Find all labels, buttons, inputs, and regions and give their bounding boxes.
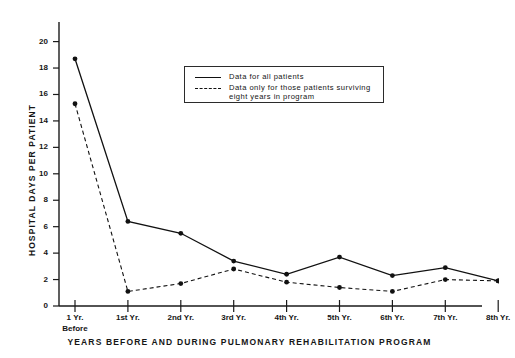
y-tick-label: 20 — [22, 37, 48, 46]
data-point — [178, 231, 183, 236]
data-point — [126, 219, 131, 224]
data-point — [443, 265, 448, 270]
legend-item-all-patients: Data for all patients — [193, 72, 371, 82]
y-tick-label: 14 — [22, 116, 48, 125]
y-tick-label: 18 — [22, 63, 48, 72]
x-tick-label: 4th Yr. — [257, 313, 317, 322]
data-point — [390, 273, 395, 278]
data-point — [284, 280, 289, 285]
legend-label-survivors-line1: Data only for those patients surviving — [229, 83, 371, 92]
chart-legend: Data for all patients Data only for thos… — [184, 66, 384, 103]
data-point — [73, 101, 78, 106]
y-axis-ticks — [53, 42, 59, 306]
x-tick-label: 1 Yr.Before — [45, 313, 105, 333]
data-point — [337, 285, 342, 290]
x-tick-label: 6th Yr. — [362, 313, 422, 322]
x-tick-label: 2nd Yr. — [151, 313, 211, 322]
data-point — [178, 281, 183, 286]
data-point — [73, 56, 78, 61]
legend-label-survivors-line2: eight years in program — [229, 92, 314, 101]
data-point — [231, 259, 236, 264]
data-point — [496, 278, 499, 283]
legend-label-all-patients: Data for all patients — [229, 72, 304, 81]
series-line-1 — [75, 104, 498, 292]
x-tick-label: 3rd Yr. — [204, 313, 264, 322]
y-tick-label: 0 — [22, 301, 48, 310]
data-point — [390, 289, 395, 294]
data-point — [126, 289, 131, 294]
y-tick-label: 6 — [22, 222, 48, 231]
y-tick-label: 10 — [22, 169, 48, 178]
legend-item-survivors: Data only for those patients surviving e… — [193, 83, 371, 102]
y-tick-label: 16 — [22, 89, 48, 98]
y-tick-label: 2 — [22, 275, 48, 284]
x-tick-label: 8th Yr. — [468, 313, 515, 322]
x-tick-label: 5th Yr. — [310, 313, 370, 322]
data-point — [231, 267, 236, 272]
y-tick-label: 12 — [22, 142, 48, 151]
data-point — [337, 255, 342, 260]
y-tick-label: 8 — [22, 195, 48, 204]
legend-dashed-line-icon — [193, 83, 223, 92]
data-point — [443, 277, 448, 282]
x-tick-label: 1st Yr. — [98, 313, 158, 322]
data-point — [284, 272, 289, 277]
legend-solid-line-icon — [193, 72, 223, 81]
y-tick-label: 4 — [22, 248, 48, 257]
x-tick-label: 7th Yr. — [415, 313, 475, 322]
